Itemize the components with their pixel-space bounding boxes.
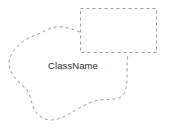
class-region-blob-outline[interactable] <box>9 27 128 120</box>
class-region-label: ClassName <box>48 61 98 71</box>
diagram-canvas: ClassName <box>0 0 171 135</box>
overlapping-rectangle-outline[interactable] <box>81 9 157 53</box>
